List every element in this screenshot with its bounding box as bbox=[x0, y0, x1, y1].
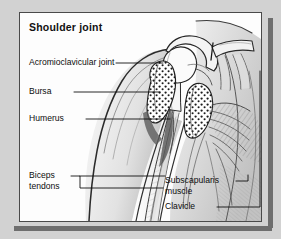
label-biceps-line-1: Biceps bbox=[29, 170, 60, 181]
panel-drop-shadow-bottom bbox=[14, 226, 272, 231]
label-subscapularis-line-2: muscle bbox=[165, 186, 219, 197]
label-biceps-tendons: Biceps tendons bbox=[29, 170, 60, 192]
label-subscapularis-muscle: Subscapularis muscle bbox=[165, 175, 219, 197]
label-humerus: Humerus bbox=[29, 113, 64, 124]
shoulder-joint-figure: Shoulder joint bbox=[0, 0, 281, 239]
illustration-panel: Shoulder joint bbox=[19, 12, 262, 222]
label-clavicle: Clavicle bbox=[165, 201, 195, 212]
label-biceps-line-2: tendons bbox=[29, 181, 60, 192]
label-acromioclavicular-joint: Acromioclavicular joint bbox=[29, 57, 115, 68]
panel-drop-shadow-right bbox=[268, 18, 273, 228]
label-subscapularis-line-1: Subscapularis bbox=[165, 175, 219, 186]
label-bursa: Bursa bbox=[29, 86, 51, 97]
